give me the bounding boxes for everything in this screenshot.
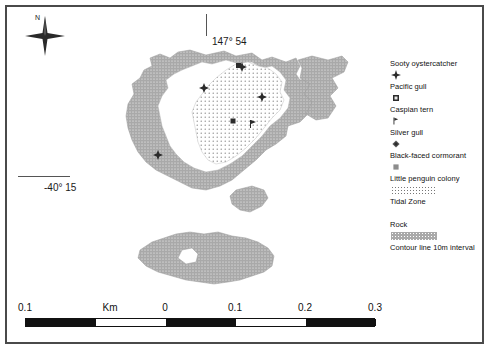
map-scale-bar: 0.1 Km 0 0.1 0.2 0.3 (25, 302, 375, 327)
scale-tick-label: 0.2 (298, 302, 312, 313)
legend-label: Silver gull (390, 127, 486, 138)
legend-item-contour-line: Contour line 10m interval (390, 242, 486, 253)
scale-unit-label: Km (103, 302, 118, 313)
latitude-tick-mark (18, 176, 70, 177)
scale-bar-segment (306, 319, 376, 326)
legend-label: Rock (390, 219, 486, 230)
legend-item-silver-gull: Silver gull (390, 127, 486, 149)
legend-item-caspian-tern: Caspian tern (390, 104, 486, 126)
scale-tick-label: 0.1 (18, 302, 32, 313)
filled-square-marker-icon (390, 92, 486, 103)
marker-pacific-gull[interactable] (236, 63, 241, 68)
legend-item-pacific-gull: Pacific gull (390, 81, 486, 103)
longitude-tick-mark (206, 14, 207, 36)
scale-bar-track (25, 318, 375, 327)
compass-north-star-icon (20, 14, 70, 58)
scale-bar-segment (26, 319, 96, 326)
legend-item-little-penguin-colony: Little penguin colony (390, 173, 486, 195)
scale-tick-label: 0.1 (228, 302, 242, 313)
rock-area-small-island (230, 186, 268, 212)
diamond-marker-icon (390, 138, 486, 149)
legend-label: Sooty oystercatcher (390, 58, 486, 69)
legend-label: Tidal Zone (390, 196, 486, 207)
scale-bar-labels: 0.1 Km 0 0.1 0.2 0.3 (25, 302, 375, 316)
legend-item-rock: Rock (390, 219, 486, 241)
marker-pacific-gull[interactable] (231, 119, 236, 124)
legend-label: Contour line 10m interval (390, 242, 486, 253)
map-legend: Sooty oystercatcher Pacific gull Caspian… (390, 58, 486, 254)
legend-label: Caspian tern (390, 104, 486, 115)
latitude-label: -40° 15 (44, 182, 76, 193)
cross-star-marker-icon (390, 69, 486, 80)
scale-bar-segment (166, 319, 236, 326)
scale-tick-label: 0.3 (368, 302, 382, 313)
legend-label: Black-faced cormorant (390, 150, 486, 161)
gray-stipple-area-swatch (390, 230, 486, 241)
dotted-area-swatch (390, 184, 486, 195)
flag-marker-icon (390, 115, 486, 126)
rock-area-south-island (138, 232, 274, 284)
map-page: N 147° 54 -40° 15 Sooty oystercatcher Pa… (0, 0, 491, 351)
white-area-swatch (390, 207, 486, 218)
legend-label: Pacific gull (390, 81, 486, 92)
longitude-label: 147° 54 (212, 36, 247, 47)
gray-square-marker-icon (390, 161, 486, 172)
legend-item-tidal-zone: Tidal Zone (390, 196, 486, 218)
legend-item-black-faced-cormorant: Black-faced cormorant (390, 150, 486, 172)
legend-item-sooty-oystercatcher: Sooty oystercatcher (390, 58, 486, 80)
legend-label: Little penguin colony (390, 173, 486, 184)
scale-tick-label: 0 (162, 302, 168, 313)
